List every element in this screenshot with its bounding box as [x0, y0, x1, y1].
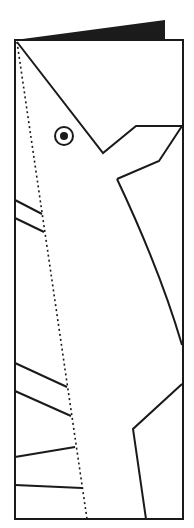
folded-card-illustration: [0, 0, 194, 528]
card-outline: [15, 40, 183, 519]
dinosaur-card-drawing: [0, 0, 194, 528]
eye-pupil: [60, 132, 68, 140]
folded-flap: [15, 20, 165, 40]
